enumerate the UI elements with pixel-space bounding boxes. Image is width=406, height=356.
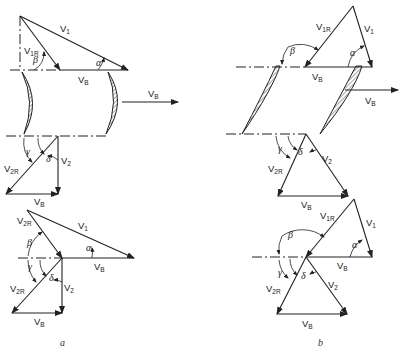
label-delta: δ xyxy=(301,270,306,281)
label-alpha: α xyxy=(96,57,102,68)
label-gamma: γ xyxy=(278,267,283,278)
label-beta: β xyxy=(26,237,32,248)
caption-a: a xyxy=(60,337,65,348)
v2r-vector xyxy=(6,136,58,194)
label-vb: VB xyxy=(312,71,323,83)
label-v2: V2 xyxy=(328,279,338,291)
label-alpha: α xyxy=(352,239,358,250)
label-beta: β xyxy=(289,45,295,56)
label-alpha: α xyxy=(86,242,92,253)
label-beta: β xyxy=(32,54,38,65)
caption-b: b xyxy=(318,337,323,348)
label-v2r-upper: V2R xyxy=(17,215,32,227)
panel-a-blades: VB xyxy=(22,72,178,134)
label-vb: VB xyxy=(94,261,105,273)
label-v1r: V1R xyxy=(316,21,331,33)
v2r-vector xyxy=(277,257,306,314)
panel-b: V1R V1 β α VB VB γ δ V2 V2R VB xyxy=(226,6,398,348)
label-v2: V2 xyxy=(322,153,332,165)
label-v1: V1 xyxy=(78,220,88,232)
label-delta: δ xyxy=(46,153,51,164)
label-v1r: V1R xyxy=(320,210,335,222)
panel-b-outlet-triangle: γ δ V2 V2R VB xyxy=(226,134,348,211)
label-vb: VB xyxy=(78,74,89,86)
label-v2r: V2R xyxy=(10,283,25,295)
label-gamma: γ xyxy=(26,146,31,157)
panel-a-outlet-triangle: γ δ V2 V2R VB xyxy=(4,136,108,208)
v1-vector xyxy=(27,210,134,258)
label-v2r: V2R xyxy=(4,163,19,175)
label-blade-vb: VB xyxy=(148,88,159,100)
label-v1: V1 xyxy=(60,23,70,35)
label-vb-lower: VB xyxy=(302,318,313,330)
label-gamma: γ xyxy=(278,143,283,154)
label-v2r: V2R xyxy=(266,283,281,295)
label-v2r: V2R xyxy=(268,163,283,175)
label-blade-vb: VB xyxy=(365,95,376,107)
v2-vector xyxy=(306,134,348,196)
v1r-vector xyxy=(306,199,354,257)
panel-a-combined-diagram: V2R V1 β α VB γ δ V2R V2 VB xyxy=(10,210,134,328)
v1r-vector xyxy=(305,6,353,67)
label-v2: V2 xyxy=(64,282,74,294)
label-vb: VB xyxy=(34,196,45,208)
velocity-triangle-diagram: V1 V1R β α VB VB γ δ V2 V2R VB xyxy=(0,0,406,356)
label-vb: VB xyxy=(337,260,348,272)
v2r-upper-vector xyxy=(27,210,62,258)
panel-a: V1 V1R β α VB VB γ δ V2 V2R VB xyxy=(4,16,178,348)
label-beta: β xyxy=(287,229,293,240)
label-delta: δ xyxy=(298,146,303,157)
label-vb-lower: VB xyxy=(34,316,45,328)
v2r-vector xyxy=(12,258,62,313)
panel-b-combined-diagram: V1R V1 β α VB γ δ V2R V2 VB xyxy=(252,199,376,330)
label-delta: δ xyxy=(49,272,54,283)
label-v1: V1 xyxy=(364,23,374,35)
v1-vector xyxy=(353,6,372,67)
v2r-vector xyxy=(278,134,306,196)
label-v2: V2 xyxy=(61,155,71,167)
label-v1: V1 xyxy=(366,217,376,229)
v1r-vector xyxy=(20,16,60,70)
label-vb: VB xyxy=(301,199,312,211)
label-gamma: γ xyxy=(28,261,33,272)
label-alpha: α xyxy=(350,47,356,58)
